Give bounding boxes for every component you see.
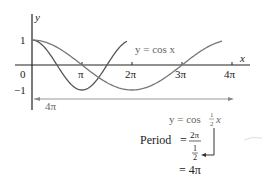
period-den-den: 2 bbox=[193, 153, 197, 162]
x-tick-0: 0 bbox=[20, 68, 26, 80]
y-tick-1: 1 bbox=[20, 34, 26, 46]
period-equals: = bbox=[180, 133, 187, 147]
x-tick-pi: π bbox=[78, 68, 84, 80]
label-cos-half-var: x bbox=[215, 113, 221, 125]
period-den-num: 1 bbox=[193, 144, 197, 153]
cosine-period-chart: y x 1 −1 0 π 2π 3π 4π y = cos x 4π y = c… bbox=[0, 0, 265, 187]
period-numerator: 2π bbox=[190, 130, 200, 140]
period-result: = 4π bbox=[179, 163, 201, 177]
x-tick-3pi: 3π bbox=[175, 68, 187, 80]
label-cos-x: y = cos x bbox=[135, 43, 176, 55]
label-cos-half-x: y = cos bbox=[169, 113, 201, 125]
arrowhead-left-icon bbox=[34, 97, 40, 101]
y-axis-label: y bbox=[34, 11, 40, 23]
arrowhead-right-icon bbox=[228, 97, 234, 101]
label-cos-half-num: 1 bbox=[210, 111, 214, 119]
x-tick-4pi: 4π bbox=[224, 68, 236, 80]
connector-line bbox=[205, 128, 214, 155]
period-span-label: 4π bbox=[45, 100, 57, 112]
label-cos-half-den: 2 bbox=[210, 120, 214, 128]
decorative-mark bbox=[244, 137, 262, 140]
period-word: Period bbox=[140, 133, 171, 147]
connector-arrowhead-icon bbox=[201, 153, 206, 157]
x-axis-label: x bbox=[239, 52, 245, 64]
y-tick-minus1: −1 bbox=[14, 84, 26, 96]
x-tick-2pi: 2π bbox=[125, 68, 137, 80]
